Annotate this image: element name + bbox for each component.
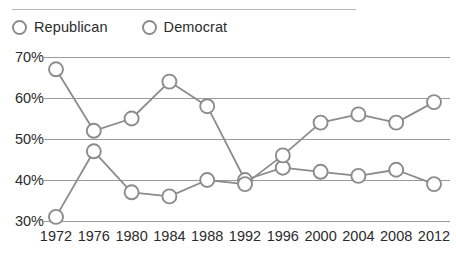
- legend-item-republican[interactable]: Republican: [12, 19, 108, 35]
- series-republican: [49, 62, 441, 191]
- data-point-democrat-1980[interactable]: [125, 185, 139, 199]
- line-chart-svg: [0, 40, 456, 240]
- data-point-republican-1976[interactable]: [87, 124, 101, 138]
- data-point-republican-1988[interactable]: [200, 99, 214, 113]
- x-tick-1972: 1972: [40, 228, 72, 244]
- x-tick-2000: 2000: [304, 228, 336, 244]
- legend-item-democrat[interactable]: Democrat: [142, 19, 228, 35]
- data-point-democrat-2008[interactable]: [389, 116, 403, 130]
- series-line-republican: [56, 69, 434, 184]
- x-tick-1988: 1988: [191, 228, 223, 244]
- data-point-democrat-2004[interactable]: [351, 107, 365, 121]
- data-point-republican-2004[interactable]: [351, 169, 365, 183]
- x-tick-2012: 2012: [418, 228, 450, 244]
- x-tick-1996: 1996: [267, 228, 299, 244]
- data-point-democrat-1992[interactable]: [238, 177, 252, 191]
- x-axis-tick-labels: 1972197619801984198819921996200020042008…: [0, 228, 456, 252]
- data-point-democrat-1996[interactable]: [276, 148, 290, 162]
- data-point-republican-2012[interactable]: [427, 177, 441, 191]
- x-tick-2004: 2004: [342, 228, 374, 244]
- series-democrat: [49, 95, 441, 224]
- series-line-democrat: [56, 102, 434, 217]
- header-divider: [12, 9, 356, 10]
- chart-figure: Republican Democrat 70%60%50%40%30% 1972…: [0, 0, 456, 261]
- data-point-democrat-1984[interactable]: [162, 189, 176, 203]
- data-point-republican-1972[interactable]: [49, 62, 63, 76]
- x-tick-1980: 1980: [115, 228, 147, 244]
- legend-marker-republican-icon: [12, 20, 27, 35]
- data-point-democrat-1976[interactable]: [87, 144, 101, 158]
- data-point-republican-2008[interactable]: [389, 163, 403, 177]
- chart-legend: Republican Democrat: [12, 16, 227, 38]
- data-point-democrat-1972[interactable]: [49, 210, 63, 224]
- gridlines: [44, 58, 450, 222]
- data-point-democrat-1988[interactable]: [200, 173, 214, 187]
- legend-label-democrat: Democrat: [164, 19, 228, 35]
- data-point-republican-1980[interactable]: [125, 112, 139, 126]
- x-tick-1984: 1984: [153, 228, 185, 244]
- data-point-republican-2000[interactable]: [314, 165, 328, 179]
- x-tick-1976: 1976: [78, 228, 110, 244]
- plot-area: [0, 40, 456, 240]
- legend-marker-democrat-icon: [142, 20, 157, 35]
- data-point-democrat-2000[interactable]: [314, 116, 328, 130]
- x-tick-2008: 2008: [380, 228, 412, 244]
- x-tick-1992: 1992: [229, 228, 261, 244]
- data-point-democrat-2012[interactable]: [427, 95, 441, 109]
- legend-label-republican: Republican: [34, 19, 108, 35]
- data-point-republican-1984[interactable]: [162, 75, 176, 89]
